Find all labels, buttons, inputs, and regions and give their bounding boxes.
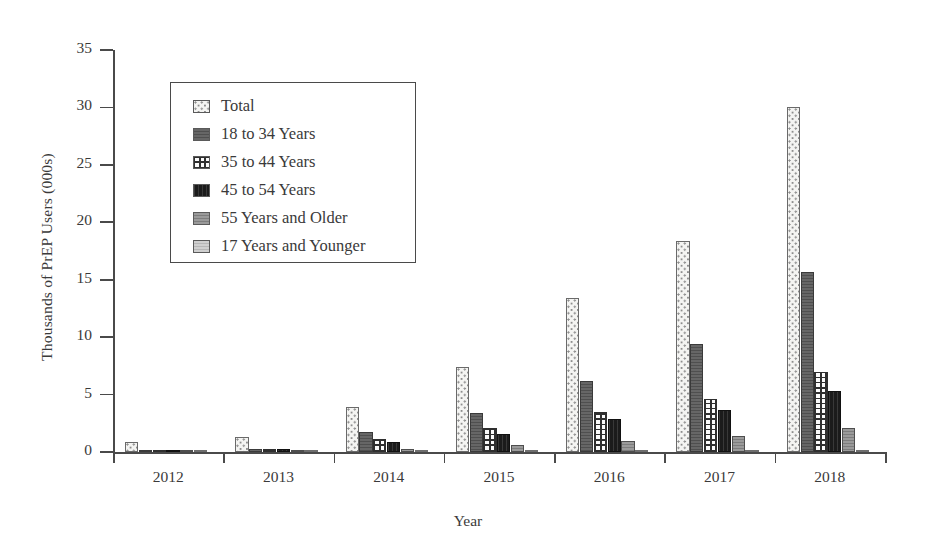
- y-tick-label: 35: [40, 39, 92, 57]
- bar-age-17-under-2018: [856, 450, 869, 452]
- bar-age-17-under-2013: [304, 450, 317, 452]
- bar-group: [456, 50, 538, 452]
- x-tick-label: 2018: [775, 468, 885, 486]
- bar-age-55-plus-2018: [842, 428, 855, 452]
- x-tick-mark: [554, 452, 556, 463]
- bar-age-55-plus-2015: [511, 445, 524, 452]
- bar-age-18-34-2015: [470, 413, 483, 452]
- bar-age-35-44-2017: [704, 399, 717, 452]
- legend-item-label: 18 to 34 Years: [221, 126, 315, 143]
- legend-swatch-icon: [193, 184, 210, 197]
- bar-age-45-54-2018: [828, 391, 841, 452]
- y-tick-mark: [100, 279, 113, 281]
- bar-group: [676, 50, 758, 452]
- y-tick-mark: [100, 336, 113, 338]
- bar-age-35-44-2013: [263, 449, 276, 452]
- bar-total-2015: [456, 367, 469, 452]
- bar-age-35-44-2016: [594, 412, 607, 452]
- bar-total-2016: [566, 298, 579, 452]
- x-tick-mark: [444, 452, 446, 463]
- legend-item-age-18-34[interactable]: 18 to 34 Years: [193, 120, 415, 148]
- legend-swatch-icon: [193, 240, 210, 253]
- bar-age-45-54-2012: [166, 450, 179, 452]
- bar-age-18-34-2017: [690, 344, 703, 452]
- x-tick-mark: [113, 452, 115, 463]
- bar-age-55-plus-2012: [180, 450, 193, 452]
- x-tick-mark: [334, 452, 336, 463]
- bar-total-2012: [125, 442, 138, 452]
- bar-total-2017: [676, 241, 689, 452]
- x-axis-line: [113, 452, 886, 454]
- x-tick-mark: [885, 452, 887, 463]
- bar-age-18-34-2014: [359, 432, 372, 452]
- x-tick-label: 2015: [444, 468, 554, 486]
- bar-age-55-plus-2013: [291, 450, 304, 452]
- bar-age-35-44-2014: [373, 439, 386, 452]
- bar-age-55-plus-2014: [401, 449, 414, 452]
- bar-age-18-34-2013: [249, 449, 262, 452]
- legend-item-age-17-under[interactable]: 17 Years and Younger: [193, 232, 415, 260]
- x-tick-mark: [775, 452, 777, 463]
- bar-group: [787, 50, 869, 452]
- y-tick-label: 15: [40, 269, 92, 287]
- legend-swatch-icon: [193, 156, 210, 169]
- y-tick-mark: [100, 394, 113, 396]
- legend-item-label: 55 Years and Older: [221, 210, 347, 227]
- legend-item-age-35-44[interactable]: 35 to 44 Years: [193, 148, 415, 176]
- y-tick-label: 0: [40, 441, 92, 459]
- bar-age-35-44-2012: [153, 450, 166, 452]
- y-tick-label: 20: [40, 211, 92, 229]
- legend-item-age-45-54[interactable]: 45 to 54 Years: [193, 176, 415, 204]
- bar-age-45-54-2016: [608, 419, 621, 452]
- x-axis-title: Year: [0, 512, 936, 530]
- legend-item-total[interactable]: Total: [193, 92, 415, 120]
- bar-age-18-34-2018: [801, 272, 814, 452]
- y-tick-mark: [100, 221, 113, 223]
- bar-age-45-54-2015: [497, 434, 510, 452]
- bar-age-17-under-2017: [745, 450, 758, 452]
- x-tick-mark: [664, 452, 666, 463]
- bar-age-18-34-2016: [580, 381, 593, 452]
- y-tick-label: 10: [40, 326, 92, 344]
- x-tick-mark: [223, 452, 225, 463]
- bar-age-17-under-2014: [415, 450, 428, 452]
- bar-age-17-under-2016: [635, 450, 648, 452]
- y-tick-label: 25: [40, 154, 92, 172]
- bar-age-45-54-2014: [387, 442, 400, 452]
- y-tick-mark: [100, 164, 113, 166]
- legend-item-age-55-plus[interactable]: 55 Years and Older: [193, 204, 415, 232]
- bar-age-55-plus-2016: [621, 441, 634, 452]
- legend-swatch-icon: [193, 100, 210, 113]
- x-tick-label: 2014: [334, 468, 444, 486]
- x-tick-label: 2016: [554, 468, 664, 486]
- y-tick-mark: [100, 107, 113, 109]
- legend-item-label: 17 Years and Younger: [221, 238, 365, 255]
- legend-swatch-icon: [193, 212, 210, 225]
- chart-legend: Total18 to 34 Years35 to 44 Years45 to 5…: [170, 82, 416, 263]
- bar-age-35-44-2018: [814, 372, 827, 452]
- x-tick-label: 2017: [665, 468, 775, 486]
- y-tick-label: 5: [40, 384, 92, 402]
- y-tick-mark: [100, 49, 113, 51]
- bar-age-55-plus-2017: [732, 436, 745, 452]
- bar-age-18-34-2012: [139, 450, 152, 452]
- bar-age-17-under-2012: [194, 450, 207, 452]
- bar-chart: Thousands of PrEP Users (000s) 051015202…: [0, 0, 936, 550]
- legend-item-label: 45 to 54 Years: [221, 182, 315, 199]
- y-tick-mark: [100, 451, 113, 453]
- bar-total-2018: [787, 107, 800, 452]
- bar-group: [566, 50, 648, 452]
- legend-item-label: 35 to 44 Years: [221, 154, 315, 171]
- x-tick-label: 2013: [223, 468, 333, 486]
- bar-age-35-44-2015: [483, 428, 496, 452]
- y-tick-label: 30: [40, 96, 92, 114]
- bar-age-17-under-2015: [525, 450, 538, 452]
- bar-age-45-54-2013: [277, 449, 290, 452]
- bar-total-2013: [235, 437, 248, 452]
- legend-item-label: Total: [221, 98, 255, 115]
- legend-swatch-icon: [193, 128, 210, 141]
- y-axis-title: Thousands of PrEP Users (000s): [38, 92, 56, 422]
- bar-age-45-54-2017: [718, 410, 731, 452]
- x-tick-label: 2012: [113, 468, 223, 486]
- bar-total-2014: [346, 407, 359, 452]
